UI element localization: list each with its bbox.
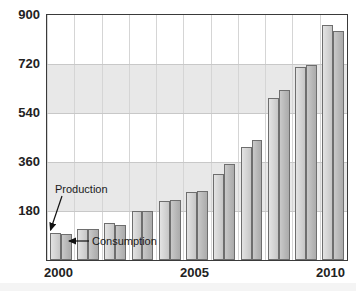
annotation-production-label: Production [55,184,108,195]
2008-production-bar [268,98,279,260]
category-separator [265,15,266,260]
x-axis-tick-label: 2005 [180,266,209,279]
x-axis-tick-label: 2010 [316,266,345,279]
2004-consumption-bar [170,200,181,260]
category-separator [320,15,321,260]
category-separator [238,15,239,260]
category-separator [211,15,212,260]
y-axis-tick-label: 900 [0,8,40,21]
bar-chart: 900 720 540 360 180 2000 2005 2010 Produ… [0,0,356,291]
category-separator [156,15,157,260]
category-separator [74,15,75,260]
2004-production-bar [159,201,170,260]
2006-production-bar [213,174,224,260]
2008-consumption-bar [279,90,290,260]
scan-artifact [0,283,356,291]
2010-production-bar [322,25,333,260]
gridline [47,64,347,65]
y-axis: 900 720 540 360 180 [0,0,46,291]
category-separator [183,15,184,260]
2010-consumption-bar [333,31,344,260]
2001-production-bar [77,229,88,260]
2000-consumption-bar [61,234,72,260]
y-axis-tick-label: 360 [0,155,40,168]
2009-production-bar [295,67,306,260]
2000-production-bar [50,233,61,260]
category-separator [129,15,130,260]
annotation-consumption-label: Consumption [92,236,157,247]
y-axis-tick-label: 720 [0,57,40,70]
x-axis-tick-label: 2000 [44,266,73,279]
2007-production-bar [241,147,252,260]
category-separator [102,15,103,260]
category-separator [347,15,348,260]
2009-consumption-bar [306,65,317,260]
2005-consumption-bar [197,191,208,260]
2006-consumption-bar [224,164,235,260]
2005-production-bar [186,192,197,260]
category-separator [47,15,48,260]
y-axis-tick-label: 540 [0,106,40,119]
y-axis-tick-label: 180 [0,204,40,217]
plot-area [46,14,348,261]
category-separator [292,15,293,260]
2007-consumption-bar [252,140,263,260]
